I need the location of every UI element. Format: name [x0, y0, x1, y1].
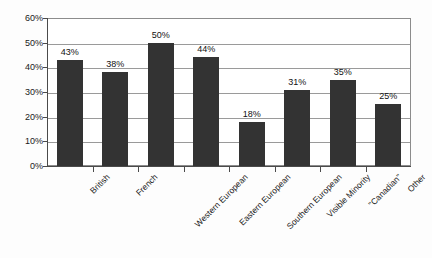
- x-axis-category-label: "Canadian": [366, 172, 403, 209]
- bar-value-label: 35%: [334, 67, 352, 77]
- x-axis-tick-mark: [366, 167, 367, 172]
- bar: [239, 122, 265, 166]
- bar: [284, 90, 310, 166]
- bar: [193, 57, 219, 166]
- bar-value-label: 50%: [152, 30, 170, 40]
- bars-layer: 43%38%50%44%18%31%35%25%: [47, 18, 411, 166]
- x-axis-category-label: French: [134, 172, 160, 198]
- bar: [375, 104, 401, 166]
- bar: [148, 43, 174, 166]
- bar: [102, 72, 128, 166]
- x-axis-tick-mark: [320, 167, 321, 172]
- bar-value-label: 38%: [106, 59, 124, 69]
- bar-value-label: 31%: [288, 77, 306, 87]
- bar-value-label: 25%: [379, 91, 397, 101]
- bar-value-label: 43%: [61, 47, 79, 57]
- x-axis-tick-mark: [184, 167, 185, 172]
- y-axis-tick-marks: [0, 18, 48, 166]
- x-axis-tick-mark: [229, 167, 230, 172]
- x-axis-tick-mark: [138, 167, 139, 172]
- bar-value-label: 18%: [243, 109, 261, 119]
- bar-chart: 0%10%20%30%40%50%60% 43%38%50%44%18%31%3…: [0, 0, 432, 258]
- x-axis-category-label: Other: [405, 172, 427, 194]
- x-axis-category-label: British: [88, 172, 112, 196]
- x-axis-tick-mark: [275, 167, 276, 172]
- x-axis-tick-mark: [93, 167, 94, 172]
- bar: [57, 60, 83, 166]
- bar-value-label: 44%: [197, 44, 215, 54]
- bar: [330, 80, 356, 166]
